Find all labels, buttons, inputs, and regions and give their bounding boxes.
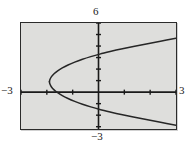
y-axis-max-label: 6	[93, 6, 99, 17]
x-axis-max-label: 3	[179, 85, 185, 96]
curve-upper-branch	[49, 38, 176, 82]
plot-area	[20, 22, 177, 130]
curve-lower-branch	[49, 82, 176, 126]
y-axis-min-label: −3	[91, 131, 103, 142]
graph-figure: 6 −3 3 −3	[0, 0, 193, 148]
x-axis-min-label: −3	[1, 85, 13, 96]
plot-canvas	[21, 23, 176, 129]
